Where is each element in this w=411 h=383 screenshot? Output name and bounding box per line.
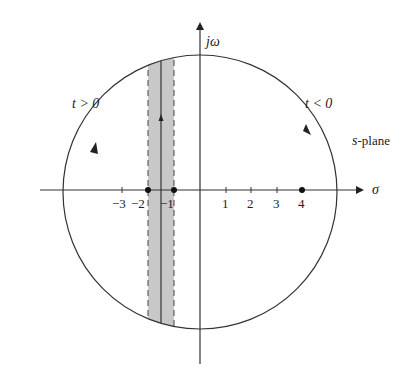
t-negative-label: t < 0: [305, 96, 332, 111]
tick-label: 1: [222, 196, 229, 211]
jw-axis-label: jω: [204, 34, 220, 49]
point-marker: [171, 187, 177, 193]
jw-axis-arrow-icon: [196, 22, 204, 30]
point-marker: [299, 187, 305, 193]
contour-arrow-right-icon: [303, 124, 311, 135]
sigma-axis-arrow-icon: [356, 186, 364, 194]
t-positive-label: t > 0: [72, 96, 99, 111]
tick-label: 2: [247, 196, 254, 211]
point-marker: [145, 187, 151, 193]
s-plane-label: s-plane: [352, 133, 390, 148]
tick-label: −3: [112, 196, 126, 211]
sigma-axis-label: σ: [372, 182, 380, 197]
tick-label: 4: [298, 196, 305, 211]
s-plane-diagram: −3 −2 −1 1 2 3 4 σ jω t > 0 t < 0 s-plan…: [0, 0, 411, 383]
tick-label: −2: [131, 196, 145, 211]
contour-arrow-left-icon: [90, 142, 98, 154]
tick-label: 3: [273, 196, 280, 211]
tick-label: −1: [160, 196, 174, 211]
